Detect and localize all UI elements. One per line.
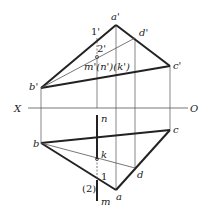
top-bd-line xyxy=(41,143,135,168)
label-a-prime: a' xyxy=(111,11,120,22)
front-triangle xyxy=(41,25,170,88)
label-b-prime: b' xyxy=(29,81,38,92)
label-mnk-prime: m'(n')(k') xyxy=(84,61,130,72)
label-2-prime: 2' xyxy=(97,43,106,54)
projection-diagram: X O a' d' c' b' 1' 2' m'(n')(k') n c b k… xyxy=(0,0,209,218)
axis-o-label: O xyxy=(190,103,198,114)
label-k: k xyxy=(101,149,107,160)
label-a: a xyxy=(116,191,122,202)
label-2: (2) xyxy=(82,183,96,194)
label-d-prime: d' xyxy=(139,27,148,38)
label-1: 1 xyxy=(101,171,107,182)
label-b: b xyxy=(33,138,39,149)
label-1-prime: 1' xyxy=(91,26,100,37)
label-n: n xyxy=(101,113,107,124)
label-m: m xyxy=(101,196,110,207)
label-d: d xyxy=(137,169,143,180)
axis-x-label: X xyxy=(13,103,22,114)
label-c-prime: c' xyxy=(173,60,181,71)
label-c: c xyxy=(173,124,179,135)
